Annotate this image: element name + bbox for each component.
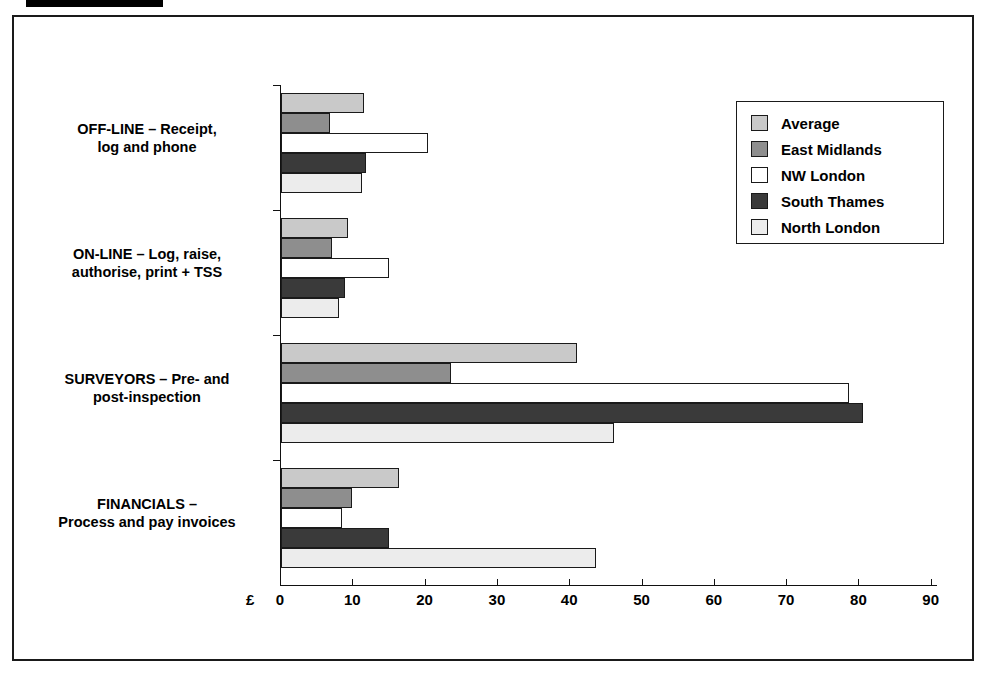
legend-swatch-icon — [751, 167, 768, 183]
category-label: SURVEYORS – Pre- andpost-inspection — [22, 370, 272, 406]
legend-item-label: North London — [781, 219, 880, 236]
bar-average — [281, 468, 399, 488]
x-axis-tick-label: 0 — [276, 591, 284, 608]
x-axis-tick-label: 10 — [344, 591, 361, 608]
x-axis-tick-label: 80 — [850, 591, 867, 608]
bar-east — [281, 488, 352, 508]
x-axis-tick — [497, 579, 498, 586]
chart-legend: AverageEast MidlandsNW LondonSouth Thame… — [736, 101, 944, 244]
bar-nwlondon — [281, 133, 428, 153]
x-axis-unit-label: £ — [246, 591, 254, 608]
y-axis-category-tick — [273, 210, 281, 211]
x-axis-tick — [786, 579, 787, 586]
x-axis-tick-label: 50 — [633, 591, 650, 608]
x-axis-tick — [931, 579, 932, 586]
x-axis-tick — [569, 579, 570, 586]
bar-northlondon — [281, 298, 339, 318]
category-label-line: SURVEYORS – Pre- and — [22, 370, 272, 388]
bar-average — [281, 343, 577, 363]
category-label: OFF-LINE – Receipt,log and phone — [22, 120, 272, 156]
x-axis-tick-label: 20 — [416, 591, 433, 608]
y-axis-category-tick — [273, 335, 281, 336]
x-axis-tick — [425, 579, 426, 586]
legend-item-label: South Thames — [781, 193, 884, 210]
x-axis-tick-label: 60 — [705, 591, 722, 608]
x-axis-tick-label: 70 — [778, 591, 795, 608]
legend-swatch-icon — [751, 115, 768, 131]
bar-east — [281, 238, 332, 258]
bar-souththames — [281, 153, 366, 173]
redaction-bar — [26, 0, 163, 7]
bar-northlondon — [281, 423, 614, 443]
category-label-line: authorise, print + TSS — [22, 263, 272, 281]
bar-souththames — [281, 528, 389, 548]
x-axis-line — [280, 585, 937, 586]
bar-east — [281, 363, 451, 383]
bar-nwlondon — [281, 258, 389, 278]
legend-item-2[interactable]: NW London — [751, 162, 943, 188]
x-axis-tick — [280, 579, 281, 586]
category-label-line: log and phone — [22, 138, 272, 156]
y-axis-category-tick — [273, 85, 281, 86]
category-label-line: Process and pay invoices — [22, 513, 272, 531]
legend-swatch-icon — [751, 141, 768, 157]
bar-northlondon — [281, 173, 362, 193]
bar-souththames — [281, 278, 345, 298]
legend-item-4[interactable]: North London — [751, 214, 943, 240]
bar-northlondon — [281, 548, 596, 568]
category-label-line: OFF-LINE – Receipt, — [22, 120, 272, 138]
bar-east — [281, 113, 330, 133]
page-header-ghost-text — [300, 0, 770, 6]
x-axis-tick-label: 90 — [922, 591, 939, 608]
legend-item-3[interactable]: South Thames — [751, 188, 943, 214]
category-label-line: FINANCIALS – — [22, 495, 272, 513]
bar-souththames — [281, 403, 863, 423]
x-axis-tick — [858, 579, 859, 586]
x-axis-tick-label: 30 — [489, 591, 506, 608]
x-axis-tick — [642, 579, 643, 586]
chart-frame: £ 0102030405060708090 OFF-LINE – Receipt… — [12, 15, 974, 661]
category-label: ON-LINE – Log, raise,authorise, print + … — [22, 245, 272, 281]
bar-nwlondon — [281, 508, 342, 528]
legend-item-label: East Midlands — [781, 141, 882, 158]
y-axis-category-tick — [273, 460, 281, 461]
x-axis-tick-label: 40 — [561, 591, 578, 608]
bar-average — [281, 93, 364, 113]
x-axis-tick — [352, 579, 353, 586]
bar-average — [281, 218, 348, 238]
legend-swatch-icon — [751, 219, 768, 235]
category-label: FINANCIALS –Process and pay invoices — [22, 495, 272, 531]
legend-swatch-icon — [751, 193, 768, 209]
legend-item-label: Average — [781, 115, 840, 132]
category-label-line: post-inspection — [22, 388, 272, 406]
x-axis-tick — [714, 579, 715, 586]
legend-item-0[interactable]: Average — [751, 110, 943, 136]
bar-nwlondon — [281, 383, 849, 403]
category-label-line: ON-LINE – Log, raise, — [22, 245, 272, 263]
legend-item-label: NW London — [781, 167, 865, 184]
legend-item-1[interactable]: East Midlands — [751, 136, 943, 162]
